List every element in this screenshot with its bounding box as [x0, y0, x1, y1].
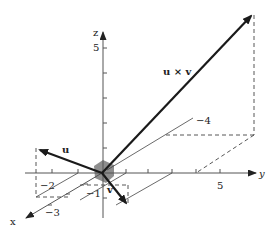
vector-u-label: u	[62, 144, 69, 155]
guide-lines	[36, 118, 193, 205]
cross-product-diagram: z 5 y −2 5 x −1 −3	[0, 0, 277, 237]
x-tick-neg1: −1	[86, 188, 101, 199]
y-tick-5: 5	[217, 180, 223, 191]
x-tick-neg3: −3	[45, 207, 60, 218]
vector-u-cross-v: u × v	[102, 16, 251, 173]
x-tick-neg4: −4	[196, 115, 211, 126]
y-axis: y −2 5	[25, 168, 265, 191]
y-axis-label: y	[258, 168, 265, 179]
y-tick-neg2: −2	[40, 180, 55, 191]
z-axis-label: z	[93, 27, 98, 38]
vector-u: u	[40, 144, 102, 173]
x-axis-label: x	[10, 216, 16, 227]
z-tick-5: 5	[93, 42, 99, 53]
x-axis: x −1 −3	[10, 173, 102, 227]
vector-cross-label: u × v	[163, 66, 193, 77]
projection-lines: −4	[36, 15, 254, 206]
vector-v-label: v	[106, 184, 114, 195]
